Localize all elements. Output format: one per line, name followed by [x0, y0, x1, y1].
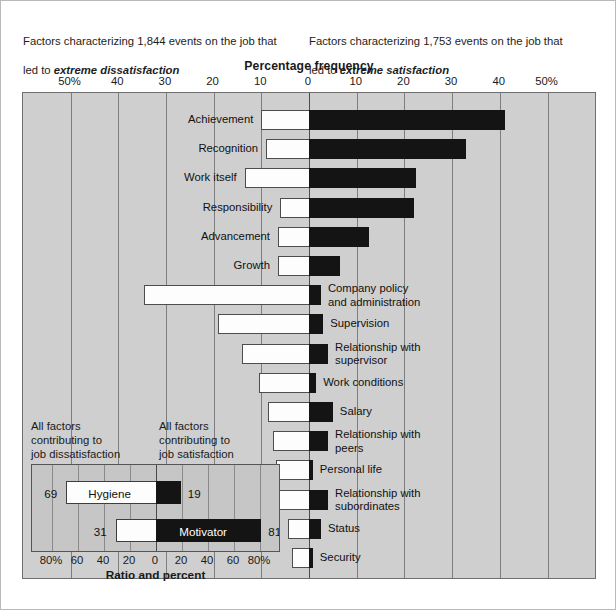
x-tick-0: 0: [305, 75, 311, 87]
inset-x-axis-tick-labels: 80%604020020406080%: [31, 554, 280, 568]
x-tick-40: 40: [111, 75, 124, 87]
x-tick-20: 20: [206, 75, 219, 87]
bar-dissatisfaction: [292, 548, 310, 568]
inset-x-tick-80pct: 80%: [40, 554, 63, 566]
inset-bar-row: [32, 481, 279, 504]
bar-row: [23, 168, 595, 188]
inset-series-name: Motivator: [179, 524, 227, 537]
x-axis-tick-labels: 50%4030201001020304050%: [1, 75, 616, 90]
inset-value-left: 69: [44, 486, 57, 499]
bar-satisfaction: [309, 344, 328, 364]
caption-satisfaction-line1: Factors characterizing 1,753 events on t…: [309, 35, 563, 47]
bar-dissatisfaction: [144, 285, 310, 305]
bar-row: [23, 314, 595, 334]
inset-x-tick-40: 40: [97, 554, 110, 566]
herzberg-two-factor-chart: Factors characterizing 1,844 events on t…: [0, 0, 616, 610]
bar-row-label: Personal life: [320, 464, 382, 477]
bar-row-label: Growth: [234, 259, 270, 272]
inset-caption-satisfaction: All factors contributing to job satisfac…: [159, 419, 284, 462]
inset-bar-row: [32, 519, 279, 542]
bar-row: [23, 227, 595, 247]
bar-dissatisfaction: [278, 256, 310, 276]
bar-dissatisfaction: [276, 460, 310, 480]
bar-row-label: Work itself: [184, 172, 237, 185]
axis-title: Percentage frequency: [1, 59, 616, 73]
bar-dissatisfaction: [242, 344, 310, 364]
bar-dissatisfaction: [288, 519, 310, 539]
bar-row: [23, 256, 595, 276]
bar-satisfaction: [309, 314, 323, 334]
bar-row: [23, 139, 595, 159]
inset-bar-satisfaction: [156, 481, 181, 504]
bar-satisfaction: [309, 285, 321, 305]
bar-row-label: Advancement: [201, 230, 270, 243]
bar-row-label: Relationship with subordinates: [335, 486, 420, 513]
inset-bar-dissatisfaction: [116, 519, 157, 542]
bar-satisfaction: [309, 460, 313, 480]
inset-value-right: 81: [268, 524, 280, 537]
inset-value-right: 19: [188, 486, 201, 499]
bar-row-label: Relationship with supervisor: [335, 340, 420, 367]
bar-row-label: Achievement: [188, 113, 253, 126]
bar-satisfaction: [309, 490, 328, 510]
bar-satisfaction: [309, 168, 416, 188]
bar-row-label: Security: [320, 551, 361, 564]
inset-x-tick-60: 60: [71, 554, 84, 566]
bar-row-label: Company policy and administration: [328, 282, 420, 309]
bar-row-label: Responsibility: [203, 201, 273, 214]
bar-satisfaction: [309, 402, 333, 422]
bar-row: [23, 110, 595, 130]
inset-captions: All factors contributing to job dissatis…: [31, 419, 286, 463]
bar-satisfaction: [309, 431, 328, 451]
inset-x-tick-80pct: 80%: [248, 554, 271, 566]
bar-satisfaction: [309, 139, 466, 159]
x-tick-10: 10: [349, 75, 362, 87]
inset-x-tick-20: 20: [123, 554, 136, 566]
x-tick-50pct: 50%: [535, 75, 558, 87]
bar-row-label: Status: [328, 522, 360, 535]
bar-row-label: Recognition: [198, 142, 258, 155]
bar-satisfaction: [309, 227, 369, 247]
bar-satisfaction: [309, 256, 340, 276]
inset-x-tick-20: 20: [175, 554, 188, 566]
bar-dissatisfaction: [245, 168, 310, 188]
bar-row-label: Work conditions: [323, 376, 403, 389]
bar-dissatisfaction: [280, 198, 310, 218]
x-tick-50pct: 50%: [58, 75, 81, 87]
bar-dissatisfaction: [218, 314, 310, 334]
bar-row: [23, 198, 595, 218]
bar-dissatisfaction: [259, 373, 310, 393]
inset-caption-dissatisfaction: All factors contributing to job dissatis…: [31, 419, 151, 462]
bar-dissatisfaction: [276, 490, 310, 510]
bar-satisfaction: [309, 110, 505, 130]
bar-satisfaction: [309, 519, 321, 539]
bar-dissatisfaction: [278, 227, 310, 247]
bar-satisfaction: [309, 198, 414, 218]
x-tick-30: 30: [445, 75, 458, 87]
inset-value-left: 31: [94, 524, 107, 537]
bar-row: [23, 344, 595, 364]
x-tick-10: 10: [254, 75, 267, 87]
bar-dissatisfaction: [266, 139, 310, 159]
x-tick-40: 40: [493, 75, 506, 87]
bar-row-label: Salary: [340, 405, 372, 418]
inset-x-tick-40: 40: [201, 554, 214, 566]
bar-dissatisfaction: [261, 110, 310, 130]
bar-row: [23, 373, 595, 393]
bar-row-label: Supervision: [330, 318, 389, 331]
x-tick-30: 30: [159, 75, 172, 87]
inset-series-name: Hygiene: [88, 486, 131, 499]
inset-plot-area: Hygiene6919Motivator3181: [31, 464, 280, 552]
bar-satisfaction: [309, 548, 313, 568]
bar-satisfaction: [309, 373, 316, 393]
inset-x-tick-60: 60: [227, 554, 240, 566]
inset-axis-title: Ratio and percent: [31, 568, 280, 582]
bar-row-label: Relationship with peers: [335, 428, 420, 455]
x-tick-20: 20: [397, 75, 410, 87]
inset-x-tick-0: 0: [152, 554, 158, 566]
caption-dissatisfaction-line1: Factors characterizing 1,844 events on t…: [23, 35, 277, 47]
bar-row: [23, 285, 595, 305]
